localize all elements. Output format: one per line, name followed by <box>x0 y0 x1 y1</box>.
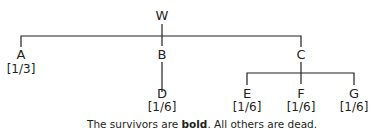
caption: The survivors are bold. All others are d… <box>87 118 317 130</box>
node-e: E <box>243 87 251 101</box>
edge-w-a-c <box>21 36 301 47</box>
caption-suffix: . All others are dead. <box>207 118 317 130</box>
node-w: W <box>156 9 169 23</box>
share-a: [1/3] <box>7 63 36 76</box>
node-b: B <box>158 48 167 62</box>
share-g: [1/6] <box>340 101 369 114</box>
node-c: C <box>296 48 305 62</box>
share-f: [1/6] <box>287 101 316 114</box>
node-g: G <box>349 87 359 101</box>
node-f: F <box>297 87 304 101</box>
node-a: A <box>17 48 26 62</box>
node-d: D <box>157 87 167 101</box>
share-d: [1/6] <box>148 101 177 114</box>
share-e: [1/6] <box>233 101 262 114</box>
caption-bold: bold <box>182 118 208 130</box>
caption-prefix: The survivors are <box>87 118 182 130</box>
